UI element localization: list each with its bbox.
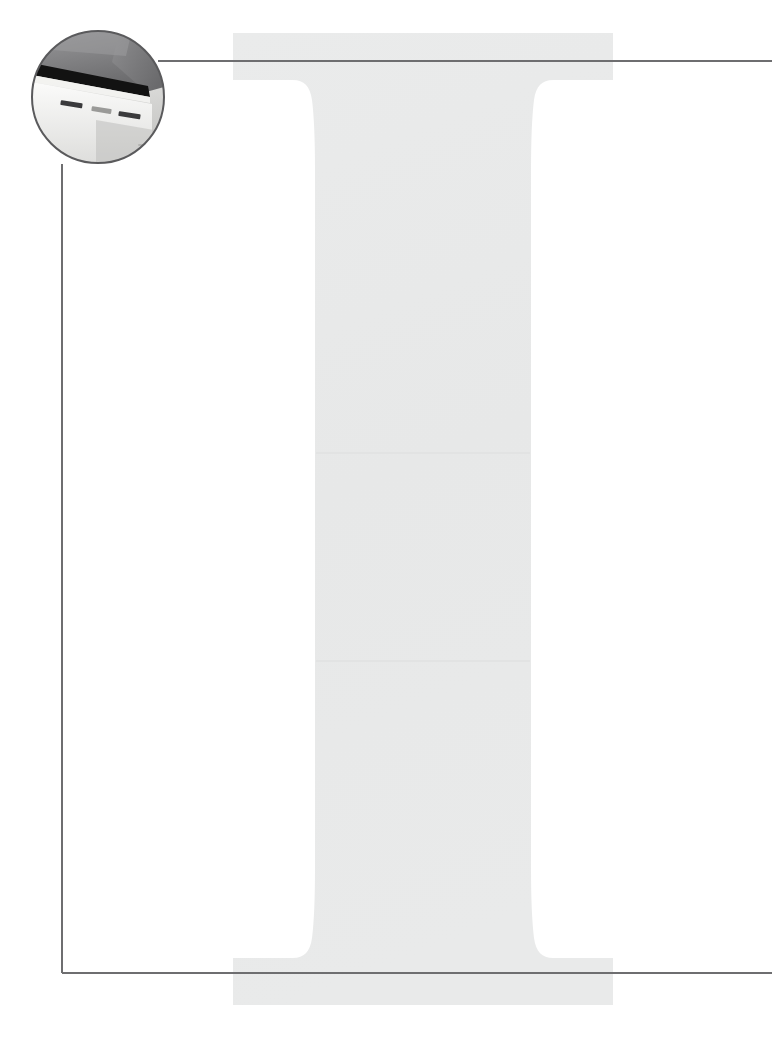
paper-seam-lower	[316, 660, 530, 662]
page-canvas	[0, 0, 772, 1040]
paper-seam-upper	[316, 452, 530, 454]
chapter-opener-page	[0, 0, 772, 1040]
